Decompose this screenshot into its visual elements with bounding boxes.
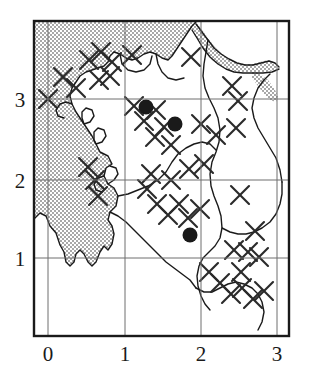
figure-container: 0 1 2 3 1 2 3 bbox=[0, 0, 309, 379]
y-tick-label-3: 3 bbox=[15, 88, 26, 112]
y-tick-label-2: 2 bbox=[15, 169, 26, 193]
site-marker bbox=[168, 117, 183, 132]
x-tick-label-1: 1 bbox=[120, 342, 131, 366]
x-tick-label-3: 3 bbox=[272, 342, 283, 366]
x-tick-label-2: 2 bbox=[196, 342, 207, 366]
distribution-map-figure: 0 1 2 3 1 2 3 bbox=[0, 0, 309, 379]
site-marker bbox=[139, 100, 154, 115]
y-tick-label-1: 1 bbox=[15, 247, 26, 271]
site-marker bbox=[183, 228, 198, 243]
x-tick-label-0: 0 bbox=[43, 342, 54, 366]
